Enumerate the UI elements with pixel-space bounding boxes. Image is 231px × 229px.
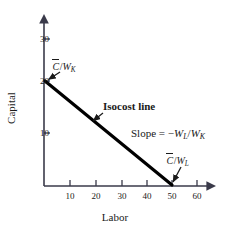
- y-tick-label-30: 30: [40, 35, 49, 44]
- labor-intercept-label: C/WL: [166, 156, 189, 168]
- x-axis-title: Labor: [102, 212, 128, 223]
- slope-annotation: Slope = −WL/WK: [131, 128, 205, 141]
- subscript-l: L: [185, 160, 189, 168]
- x-tick-label-50: 50: [168, 192, 177, 201]
- capital-intercept-label: C/WK: [52, 62, 76, 74]
- subscript-k: K: [200, 132, 205, 141]
- x-tick-label-20: 20: [92, 192, 101, 201]
- x-tick-label-30: 30: [118, 192, 127, 201]
- w-symbol-numerator: W: [174, 127, 183, 139]
- y-axis-title: Capital: [6, 92, 17, 124]
- isocost-chart-figure: 30 20 10 10 20 30 40 50 60 Labor Capital…: [0, 0, 231, 229]
- w-symbol: W: [176, 155, 184, 166]
- x-axis-ticks: [70, 180, 197, 186]
- labor-intercept-arrow: [173, 167, 181, 182]
- c-bar-symbol: C: [52, 61, 60, 72]
- w-symbol: W: [62, 61, 70, 72]
- y-tick-label-10: 10: [40, 129, 49, 138]
- c-bar-symbol: C: [166, 155, 174, 166]
- subscript-k: K: [71, 66, 76, 74]
- x-tick-label-10: 10: [66, 192, 75, 201]
- isocost-line-label: Isocost line: [103, 101, 155, 112]
- isocost-label-arrow: [93, 113, 103, 121]
- w-symbol-denominator: W: [191, 127, 200, 139]
- x-tick-label-40: 40: [143, 192, 152, 201]
- slope-word: Slope: [131, 127, 156, 139]
- y-tick-label-20: 20: [40, 77, 49, 86]
- x-tick-label-60: 60: [193, 192, 202, 201]
